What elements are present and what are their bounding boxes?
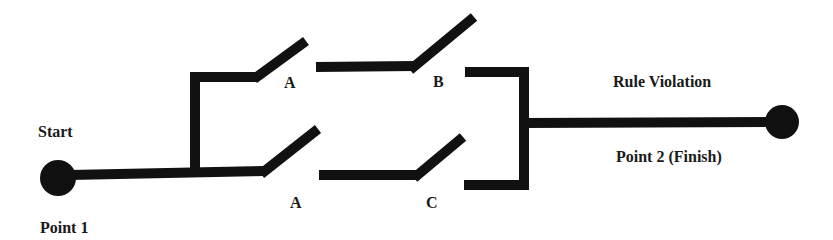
left-branch-connector: [195, 77, 256, 176]
switch-bottom-a: [261, 129, 318, 174]
switch-bottom-c-label: C: [426, 194, 438, 211]
switch-top-b-blade: [410, 17, 474, 70]
switch-bottom-c-blade: [414, 137, 463, 178]
output-wire: [524, 122, 770, 123]
upper-middle-wire: [316, 66, 414, 67]
right-bracket-collector: [464, 72, 524, 185]
switch-top-a: [254, 41, 306, 79]
switch-bottom-a-label: A: [290, 194, 302, 211]
point-2-label: Point 2 (Finish): [616, 148, 722, 166]
switch-circuit-diagram: Start Point 1 Rule Violation Point 2 (Fi…: [0, 0, 833, 240]
finish-node: [765, 105, 799, 139]
switch-top-a-label: A: [284, 74, 296, 91]
switch-bottom-c: [414, 137, 463, 178]
point-1-label: Point 1: [40, 219, 88, 236]
start-label: Start: [38, 123, 73, 140]
switch-bottom-a-blade: [261, 129, 318, 174]
switch-top-a-blade: [254, 41, 306, 79]
rule-violation-label: Rule Violation: [613, 73, 711, 90]
switch-top-b: [410, 17, 474, 70]
switch-top-b-label: B: [433, 73, 444, 90]
input-wire: [70, 171, 264, 175]
